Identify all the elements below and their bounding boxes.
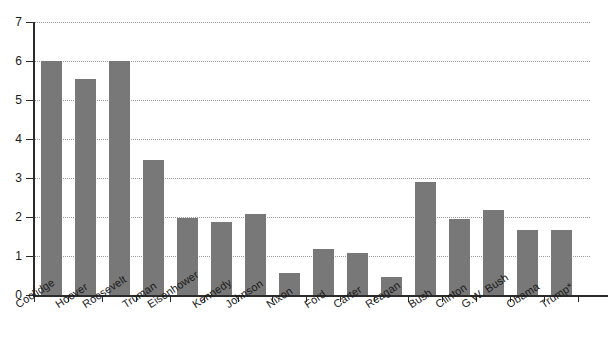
bars-layer [0, 0, 610, 295]
bar-coolidge [41, 61, 62, 295]
y-tick-6 [26, 61, 33, 62]
y-tick-1 [26, 256, 33, 257]
y-tick-2 [26, 217, 33, 218]
bar-ford [313, 249, 334, 295]
y-axis-line [33, 22, 35, 296]
y-tick-7 [26, 22, 33, 23]
y-tick-3 [26, 178, 33, 179]
y-tick-5 [26, 100, 33, 101]
y-tick-4 [26, 139, 33, 140]
bar-roosevelt [109, 61, 130, 295]
bar-hoover [75, 79, 96, 295]
bar-bush [415, 182, 436, 295]
bar-chart-figure: 7 6 5 4 3 2 1 0 Coolidge Hoover Roosevel… [0, 0, 610, 358]
bar-truman [143, 160, 164, 295]
x-tick-16 [578, 295, 579, 302]
